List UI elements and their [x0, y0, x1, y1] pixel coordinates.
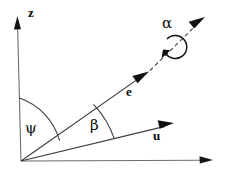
- alpha-angle-label: α: [162, 16, 172, 31]
- beta-angle-label: β: [90, 118, 99, 133]
- horizontal-axis-line: [21, 160, 202, 161]
- u-vector-label: u: [153, 129, 160, 142]
- z-axis: [14, 16, 21, 161]
- u-vector-arrowhead: [158, 120, 174, 129]
- alpha-rotation-arc: [166, 35, 187, 58]
- dashed-extension-line: [150, 25, 197, 71]
- z-axis-label: z: [28, 6, 34, 19]
- diagram-canvas: [0, 0, 225, 172]
- z-axis-line: [18, 26, 21, 161]
- psi-angle-label: ψ: [25, 121, 37, 136]
- e-vector-dashed-extension: [150, 17, 205, 71]
- dashed-extension-arrowhead: [189, 17, 205, 29]
- horizontal-axis-arrowhead: [200, 156, 214, 163]
- e-vector-line: [21, 78, 140, 161]
- horizontal-axis: [21, 156, 213, 163]
- vector-angle-diagram: z α e β u ψ: [0, 0, 225, 172]
- e-vector-label: e: [126, 85, 132, 98]
- z-axis-arrowhead: [14, 16, 21, 30]
